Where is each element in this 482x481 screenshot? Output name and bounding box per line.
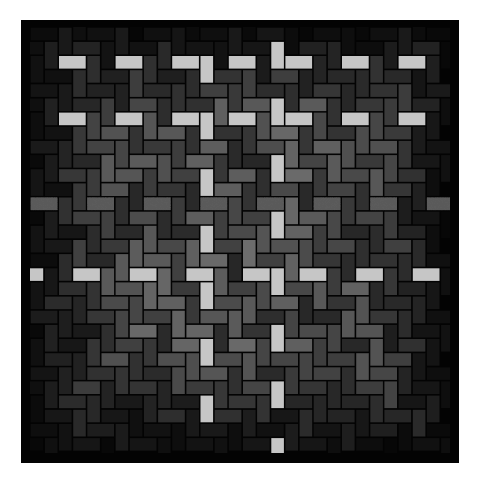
vertical-brick — [45, 268, 58, 295]
vertical-brick — [328, 381, 341, 408]
horizontal-brick — [257, 367, 284, 380]
horizontal-brick — [356, 438, 383, 451]
horizontal-brick — [314, 84, 341, 97]
horizontal-brick — [59, 226, 86, 239]
horizontal-brick — [257, 311, 284, 324]
vertical-brick — [158, 155, 171, 182]
vertical-brick — [271, 212, 284, 239]
vertical-brick — [370, 339, 383, 366]
horizontal-brick — [300, 268, 327, 281]
vertical-brick — [144, 339, 157, 366]
vertical-brick — [59, 254, 72, 281]
horizontal-brick — [328, 183, 355, 196]
horizontal-brick — [257, 198, 284, 211]
vertical-brick — [45, 99, 58, 126]
vertical-brick — [384, 155, 397, 182]
vertical-brick — [116, 424, 129, 451]
vertical-brick — [229, 198, 242, 225]
vertical-brick — [130, 240, 143, 267]
vertical-brick — [285, 141, 298, 168]
horizontal-brick — [300, 438, 327, 451]
horizontal-brick — [201, 141, 228, 154]
horizontal-brick — [314, 141, 341, 154]
horizontal-brick — [130, 438, 157, 451]
vertical-brick — [229, 141, 242, 168]
vertical-brick — [257, 396, 270, 423]
vertical-brick — [271, 325, 284, 352]
horizontal-brick — [130, 212, 157, 225]
horizontal-brick — [271, 353, 298, 366]
horizontal-brick — [285, 56, 312, 69]
vertical-brick — [201, 339, 214, 366]
vertical-brick — [73, 127, 86, 154]
vertical-brick — [314, 169, 327, 196]
vertical-brick — [243, 410, 256, 437]
horizontal-brick — [342, 56, 369, 69]
vertical-brick — [271, 42, 284, 69]
horizontal-brick — [116, 226, 143, 239]
vertical-brick — [102, 212, 115, 239]
horizontal-brick — [31, 84, 58, 97]
vertical-brick — [73, 70, 86, 97]
horizontal-brick — [300, 42, 327, 55]
horizontal-brick — [356, 99, 383, 112]
vertical-brick — [73, 353, 86, 380]
vertical-brick — [201, 56, 214, 83]
horizontal-brick — [102, 297, 129, 310]
horizontal-brick — [144, 141, 171, 154]
horizontal-brick — [116, 169, 143, 182]
horizontal-brick — [31, 141, 58, 154]
herringbone-image: Herringbone brick pattern in grey tones … — [0, 0, 482, 481]
horizontal-brick — [130, 155, 157, 168]
horizontal-brick — [413, 155, 440, 168]
vertical-brick — [215, 381, 228, 408]
vertical-brick — [102, 99, 115, 126]
vertical-brick — [285, 84, 298, 111]
horizontal-brick — [186, 381, 213, 394]
vertical-brick — [314, 339, 327, 366]
horizontal-brick — [102, 410, 129, 423]
horizontal-brick — [201, 84, 228, 97]
vertical-brick — [144, 282, 157, 309]
vertical-brick — [370, 113, 383, 140]
horizontal-brick — [370, 28, 397, 41]
horizontal-brick — [271, 297, 298, 310]
horizontal-brick — [243, 325, 270, 338]
vertical-brick — [59, 141, 72, 168]
horizontal-brick — [73, 155, 100, 168]
vertical-brick — [87, 339, 100, 366]
vertical-brick — [300, 127, 313, 154]
horizontal-brick — [172, 282, 199, 295]
vertical-brick — [172, 424, 185, 451]
horizontal-brick — [116, 56, 143, 69]
vertical-brick — [215, 155, 228, 182]
vertical-brick — [285, 367, 298, 394]
horizontal-brick — [144, 254, 171, 267]
vertical-brick — [285, 254, 298, 281]
horizontal-brick — [87, 367, 114, 380]
vertical-brick — [342, 311, 355, 338]
vertical-brick — [186, 127, 199, 154]
vertical-brick — [102, 325, 115, 352]
horizontal-brick — [399, 396, 426, 409]
vertical-brick — [314, 113, 327, 140]
vertical-brick — [158, 268, 171, 295]
horizontal-brick — [314, 198, 341, 211]
vertical-brick — [399, 198, 412, 225]
vertical-brick — [413, 240, 426, 267]
vertical-brick — [384, 381, 397, 408]
horizontal-brick — [87, 141, 114, 154]
vertical-brick — [59, 28, 72, 55]
horizontal-brick — [384, 183, 411, 196]
horizontal-brick — [186, 325, 213, 338]
horizontal-brick — [384, 70, 411, 83]
horizontal-brick — [342, 113, 369, 126]
vertical-brick — [399, 28, 412, 55]
horizontal-brick — [370, 254, 397, 267]
vertical-brick — [399, 311, 412, 338]
horizontal-brick — [328, 127, 355, 140]
vertical-brick — [130, 183, 143, 210]
vertical-brick — [314, 396, 327, 423]
vertical-brick — [172, 141, 185, 168]
vertical-brick — [300, 183, 313, 210]
